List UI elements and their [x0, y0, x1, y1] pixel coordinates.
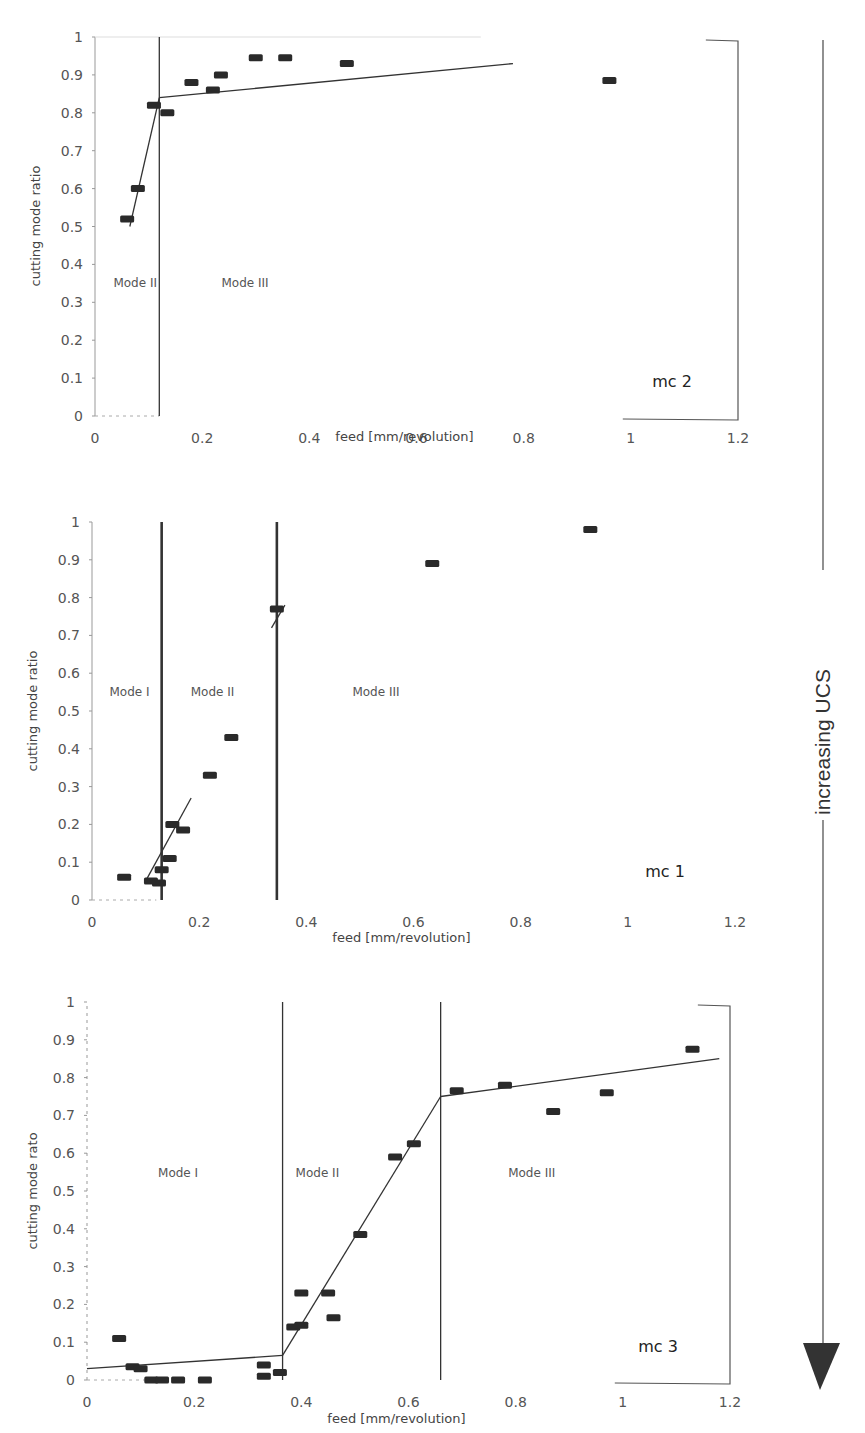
x-tick-label: 0.6 [397, 1394, 419, 1410]
x-tick-label: 1.2 [724, 914, 746, 930]
x-tick-label: 0 [83, 1394, 92, 1410]
x-tick-label: 0.6 [402, 914, 424, 930]
mode-label: Mode II [191, 685, 235, 699]
data-point-marker [203, 772, 217, 779]
data-point-marker [214, 71, 228, 78]
data-point-marker [278, 54, 292, 61]
data-point-marker [171, 1377, 185, 1384]
data-point-marker [206, 87, 220, 94]
y-tick-label: 0.5 [53, 1183, 75, 1199]
y-tick-label: 0.3 [53, 1259, 75, 1275]
chart-mc1: 00.10.20.30.40.50.60.70.80.9100.20.40.60… [25, 514, 746, 945]
y-tick-label: 0 [71, 892, 80, 908]
y-tick-label: 0 [66, 1372, 75, 1388]
y-tick-label: 0.4 [58, 741, 80, 757]
y-tick-label: 0.2 [53, 1296, 75, 1312]
y-tick-label: 0.8 [61, 105, 83, 121]
y-tick-label: 0.5 [58, 703, 80, 719]
y-tick-label: 0.2 [58, 816, 80, 832]
data-point-marker [117, 874, 131, 881]
data-point-marker [155, 866, 169, 873]
panel-label: mc 3 [638, 1337, 678, 1356]
data-point-marker [294, 1290, 308, 1297]
data-point-marker [249, 54, 263, 61]
data-point-marker [326, 1314, 340, 1321]
x-axis-label: feed [mm/revolution] [327, 1411, 465, 1426]
x-tick-label: 0 [88, 914, 97, 930]
y-tick-label: 0.9 [61, 67, 83, 83]
ucs-arrow: increasing UCS [803, 40, 840, 1390]
y-tick-label: 0.8 [58, 590, 80, 606]
panel-label: mc 1 [645, 862, 685, 881]
data-point-marker [184, 79, 198, 86]
y-tick-label: 0.7 [61, 143, 83, 159]
data-point-marker [425, 560, 439, 567]
fit-line [441, 1059, 720, 1097]
x-tick-label: 0.2 [191, 430, 213, 446]
data-point-marker [321, 1290, 335, 1297]
fit-line [130, 98, 159, 227]
data-point-marker [160, 109, 174, 116]
x-axis-label: feed [mm/revolution] [332, 930, 470, 945]
y-tick-label: 0.1 [61, 370, 83, 386]
y-axis-label: cutting mode ratio [25, 651, 40, 772]
y-tick-label: 0.7 [58, 627, 80, 643]
data-point-marker [257, 1373, 271, 1380]
data-point-marker [270, 605, 284, 612]
data-point-marker [583, 526, 597, 533]
data-point-marker [224, 734, 238, 741]
y-tick-label: 0.9 [58, 552, 80, 568]
y-tick-label: 0.8 [53, 1070, 75, 1086]
y-tick-label: 1 [74, 29, 83, 45]
x-tick-label: 1.2 [727, 430, 749, 446]
mode-label: Mode II [113, 276, 157, 290]
x-tick-label: 0.4 [290, 1394, 312, 1410]
y-tick-label: 0.4 [53, 1221, 75, 1237]
mode-label: Mode I [158, 1166, 198, 1180]
y-tick-label: 0.6 [53, 1145, 75, 1161]
x-tick-label: 0.8 [505, 1394, 527, 1410]
y-tick-label: 0.2 [61, 332, 83, 348]
data-point-marker [546, 1108, 560, 1115]
fit-line [283, 1097, 441, 1356]
data-point-marker [353, 1231, 367, 1238]
data-point-marker [388, 1153, 402, 1160]
y-tick-label: 0.4 [61, 256, 83, 272]
y-axis-label: cutting mode rato [25, 1132, 40, 1249]
x-tick-label: 0.8 [510, 914, 532, 930]
frame-bracket [623, 40, 738, 420]
data-point-marker [685, 1046, 699, 1053]
y-tick-label: 0.7 [53, 1107, 75, 1123]
x-tick-label: 0.2 [188, 914, 210, 930]
data-point-marker [294, 1322, 308, 1329]
y-tick-label: 1 [71, 514, 80, 530]
data-point-marker [198, 1377, 212, 1384]
data-point-marker [134, 1365, 148, 1372]
data-point-marker [498, 1082, 512, 1089]
mode-label: Mode III [352, 685, 399, 699]
y-axis-label: cutting mode ratio [28, 166, 43, 287]
x-tick-label: 0.2 [183, 1394, 205, 1410]
y-tick-label: 0.9 [53, 1032, 75, 1048]
data-point-marker [112, 1335, 126, 1342]
data-point-marker [120, 215, 134, 222]
data-point-marker [340, 60, 354, 67]
figure-canvas: 00.10.20.30.40.50.60.70.80.9100.20.40.60… [0, 0, 865, 1433]
y-tick-label: 0.6 [58, 665, 80, 681]
y-tick-label: 0 [74, 408, 83, 424]
x-axis-label: feed [mm/revolution] [335, 429, 473, 444]
data-point-marker [163, 855, 177, 862]
chart-mc3: 00.10.20.30.40.50.60.70.80.9100.20.40.60… [25, 994, 741, 1426]
y-tick-label: 1 [66, 994, 75, 1010]
y-tick-label: 0.1 [53, 1334, 75, 1350]
y-tick-label: 0.5 [61, 219, 83, 235]
data-point-marker [152, 879, 166, 886]
chart-mc2: 00.10.20.30.40.50.60.70.80.9100.20.40.60… [28, 29, 749, 446]
y-tick-label: 0.1 [58, 854, 80, 870]
ucs-label: increasing UCS [811, 669, 834, 815]
x-tick-label: 0.8 [513, 430, 535, 446]
data-point-marker [407, 1140, 421, 1147]
mode-label: Mode I [109, 685, 149, 699]
data-point-marker [147, 102, 161, 109]
x-tick-label: 0.4 [298, 430, 320, 446]
